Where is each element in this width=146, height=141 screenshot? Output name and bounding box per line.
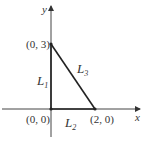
- point-0-3: [49, 42, 52, 45]
- point-label-origin: (0, 0): [26, 113, 50, 126]
- point-origin: [49, 107, 52, 110]
- y-axis-label: y: [41, 3, 47, 15]
- segment-label-L1: L1: [36, 73, 48, 90]
- point-label-0-3: (0, 3): [26, 38, 50, 51]
- segment-L3: [51, 44, 95, 109]
- segment-label-L3: L3: [76, 61, 88, 78]
- segment-label-L2: L2: [64, 115, 76, 132]
- point-label-2-0: (2, 0): [90, 113, 114, 126]
- coordinate-diagram: y x (0, 3) (0, 0) (2, 0) L1 L2 L3: [0, 0, 146, 141]
- point-2-0: [93, 107, 96, 110]
- x-axis-label: x: [134, 111, 140, 123]
